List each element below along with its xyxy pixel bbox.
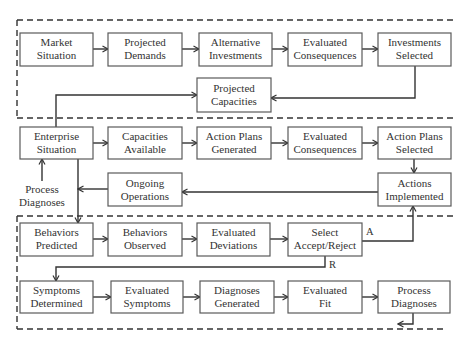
- node-behaviors-predicted: Behaviors Predicted: [20, 223, 93, 256]
- node-label-line1: Symptoms: [33, 284, 80, 296]
- node-label-line2: Symptoms: [123, 297, 170, 309]
- arrow-investments-to-capacities: [271, 66, 415, 98]
- free-label-process-diagnoses: Process Diagnoses: [19, 183, 65, 208]
- node-diagnoses-generated: Diagnoses Generated: [200, 281, 274, 313]
- node-projected-capacities: Projected Capacities: [197, 78, 271, 112]
- node-label-line2: Investments: [209, 49, 262, 61]
- node-label-line1: Enterprise: [34, 130, 79, 142]
- node-label-line2: Predicted: [36, 239, 78, 251]
- node-label-line1: Action Plans: [386, 130, 443, 142]
- node-label-line1: Evaluated: [303, 130, 347, 142]
- node-label-line2: Situation: [37, 49, 77, 61]
- node-process-diagnoses: Process Diagnoses: [378, 281, 450, 313]
- node-label-line1: Actions: [397, 177, 431, 189]
- node-label-line1: Investments: [388, 36, 441, 48]
- node-evaluated-deviations: Evaluated Deviations: [197, 223, 270, 256]
- node-label-line2: Observed: [124, 239, 167, 251]
- free-label-line1: Process: [25, 183, 59, 195]
- node-label-line1: Select: [312, 226, 339, 238]
- edge-label-reject: R: [329, 259, 336, 270]
- node-label-line2: Situation: [37, 143, 77, 155]
- node-select-accept-reject: Select Accept/Reject: [288, 223, 362, 256]
- node-label-line1: Market: [41, 36, 73, 48]
- node-action-plans-selected: Action Plans Selected: [378, 127, 451, 159]
- node-label-line1: Diagnoses: [214, 284, 260, 296]
- edge-label-accept: A: [366, 226, 374, 237]
- node-label-line2: Deviations: [210, 239, 258, 251]
- node-evaluated-symptoms: Evaluated Symptoms: [111, 281, 183, 313]
- node-alternative-investments: Alternative Investments: [199, 33, 272, 66]
- node-evaluated-fit: Evaluated Fit: [288, 281, 362, 313]
- node-symptoms-determined: Symptoms Determined: [20, 281, 93, 313]
- node-label-line2: Generated: [214, 297, 260, 309]
- process-flow-diagram: Market Situation Projected Demands Alter…: [0, 0, 467, 341]
- node-enterprise-situation: Enterprise Situation: [20, 127, 93, 159]
- free-label-line2: Diagnoses: [19, 196, 65, 208]
- node-action-plans-generated: Action Plans Generated: [197, 127, 271, 159]
- arrow-reject-to-symptoms: [56, 256, 325, 281]
- node-label-line1: Projected: [124, 36, 166, 48]
- node-label-line1: Evaluated: [212, 226, 256, 238]
- node-label-line2: Capacities: [211, 95, 257, 107]
- node-label-line2: Generated: [211, 143, 257, 155]
- node-label-line1: Capacities: [122, 130, 168, 142]
- node-label-line2: Selected: [396, 49, 434, 61]
- node-behaviors-observed: Behaviors Observed: [108, 223, 182, 256]
- node-label-line2: Implemented: [385, 190, 444, 202]
- node-label-line1: Ongoing: [126, 177, 165, 189]
- node-market-situation: Market Situation: [20, 33, 93, 66]
- node-label-line1: Evaluated: [303, 284, 347, 296]
- node-label-line2: Demands: [124, 49, 166, 61]
- node-actions-implemented: Actions Implemented: [378, 173, 451, 206]
- node-capacities-available: Capacities Available: [108, 127, 182, 159]
- node-label-line2: Accept/Reject: [294, 239, 356, 251]
- node-label-line1: Behaviors: [34, 226, 79, 238]
- node-label-line2: Available: [124, 143, 166, 155]
- node-label-line2: Operations: [121, 190, 169, 202]
- node-label-line2: Diagnoses: [391, 297, 437, 309]
- node-label-line1: Projected: [213, 82, 255, 94]
- node-evaluated-consequences-top: Evaluated Consequences: [288, 33, 362, 66]
- node-label-line1: Evaluated: [303, 36, 347, 48]
- node-label-line2: Fit: [319, 297, 331, 309]
- node-label-line1: Process: [397, 284, 431, 296]
- node-evaluated-consequences-mid: Evaluated Consequences: [288, 127, 362, 159]
- node-label-line1: Evaluated: [125, 284, 169, 296]
- node-label-line1: Action Plans: [206, 130, 263, 142]
- node-ongoing-operations: Ongoing Operations: [108, 173, 182, 206]
- node-label-line1: Behaviors: [123, 226, 168, 238]
- node-label-line2: Selected: [396, 143, 434, 155]
- node-label-line1: Alternative: [211, 36, 261, 48]
- arrow-enterprise-to-capacities: [56, 95, 197, 127]
- node-label-line2: Determined: [31, 297, 83, 309]
- node-projected-demands: Projected Demands: [108, 33, 182, 66]
- node-label-line2: Consequences: [294, 49, 357, 61]
- node-investments-selected: Investments Selected: [378, 33, 451, 66]
- node-label-line2: Consequences: [294, 143, 357, 155]
- arrow-process-diagnoses-out: [398, 313, 413, 324]
